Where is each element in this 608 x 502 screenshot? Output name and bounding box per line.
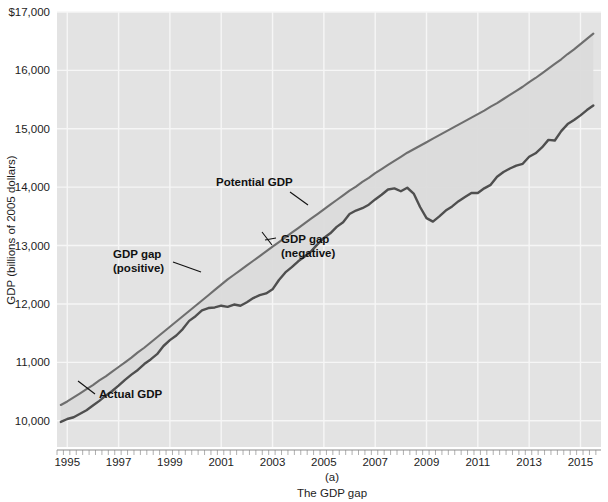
y-axis-tick-label: 11,000 (16, 356, 50, 368)
y-axis-tick-label: 10,000 (15, 415, 50, 427)
x-axis-tick-label: 1999 (157, 456, 183, 468)
x-axis-tick-label: 2001 (208, 456, 234, 468)
gdp-gap-figure: $17,00016,00015,00014,00013,00012,00011,… (0, 0, 608, 502)
annotation-gdp-gap-negative-line2: (negative) (281, 247, 335, 259)
x-axis-tick-label: 2007 (362, 456, 388, 468)
x-axis-tick-label: 1997 (106, 456, 132, 468)
x-axis-tick-label: 2003 (260, 456, 286, 468)
y-axis-tick-label: 14,000 (15, 181, 50, 193)
x-axis-tick-label: 1995 (54, 456, 80, 468)
annotation-potential-gdp-label: Potential GDP (216, 176, 293, 188)
plot-area (57, 12, 601, 447)
y-axis-tick-label: $17,000 (8, 6, 50, 18)
y-axis-tick-label: 15,000 (15, 123, 50, 135)
annotation-gdp-gap-positive-line2: (positive) (113, 262, 164, 274)
y-axis-tick-label: 12,000 (15, 298, 50, 310)
x-axis-tick-label: 2009 (414, 456, 440, 468)
y-axis-tick-label: 13,000 (15, 240, 50, 252)
x-axis-tick-label: 2005 (311, 456, 337, 468)
caption-text: The GDP gap (297, 487, 367, 499)
annotation-actual-gdp-label: Actual GDP (99, 388, 163, 400)
y-axis-title: GDP (billions of 2005 dollars) (5, 155, 17, 305)
y-axis-tick-label: 16,000 (15, 64, 50, 76)
annotation-gdp-gap-positive-line1: GDP gap (113, 248, 161, 260)
x-axis-tick-label: 2015 (568, 456, 594, 468)
chart-svg: $17,00016,00015,00014,00013,00012,00011,… (0, 0, 608, 502)
annotation-gdp-gap-negative-line1: GDP gap (281, 233, 329, 245)
caption-letter: (a) (325, 471, 339, 483)
x-axis-tick-label: 2013 (516, 456, 542, 468)
x-axis-tick-label: 2011 (465, 456, 490, 468)
